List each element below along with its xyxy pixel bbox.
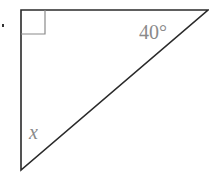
angle-label-x: x (28, 121, 38, 143)
right-angle-marker (21, 10, 45, 34)
angle-label-40: 40° (139, 21, 167, 43)
triangle-diagram: 40° x (0, 0, 209, 191)
bullet-mark (2, 24, 4, 27)
right-triangle (21, 10, 208, 170)
